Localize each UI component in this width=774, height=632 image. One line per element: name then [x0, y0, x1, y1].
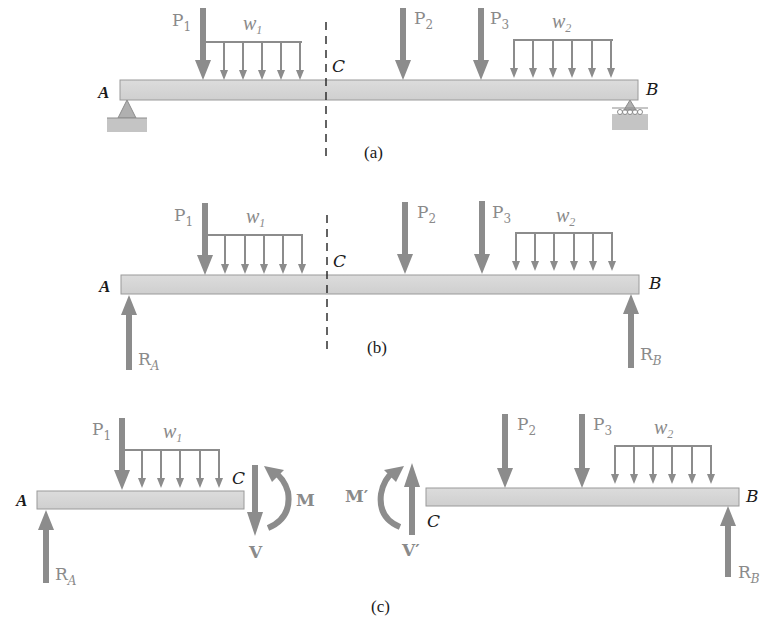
- caption-a: (a): [364, 143, 383, 162]
- reaction-ra-arrow: [121, 295, 137, 370]
- label-c-b: C: [333, 251, 346, 271]
- label-p1: P1: [172, 10, 191, 34]
- beam-b: [121, 275, 639, 294]
- label-p3-c: P3: [593, 414, 612, 438]
- panel-b: P1 w1 C P2 P3 w2 A B RA RB (b): [98, 201, 662, 373]
- distributed-load-w2-b: [512, 233, 616, 271]
- label-m-prime: M′: [345, 486, 369, 506]
- beam-segment-cb: [426, 488, 739, 506]
- shear-v-arrow: [247, 465, 263, 536]
- beam-diagram-figure: P1 w1 C P2 P3 w2 A B (a): [0, 0, 774, 632]
- label-v-prime: V′: [401, 540, 420, 560]
- label-w2-b: w2: [556, 204, 575, 229]
- load-p2-arrow-c: [497, 414, 513, 488]
- panel-c: P1 w1 C A RA V M: [15, 414, 760, 616]
- label-rb-b: RB: [640, 344, 662, 368]
- caption-b: (b): [367, 338, 387, 357]
- reaction-rb-arrow: [623, 294, 639, 368]
- distributed-load-w1: [206, 42, 304, 80]
- label-a-b: A: [98, 277, 110, 296]
- label-p2-c: P2: [517, 414, 536, 438]
- load-p1-arrow: [195, 8, 211, 80]
- label-w2-c: w2: [654, 416, 673, 441]
- label-b-b: B: [648, 273, 662, 293]
- distributed-load-w1-c: [124, 450, 223, 488]
- distributed-load-w2-c: [611, 446, 715, 484]
- load-p1-arrow-b: [197, 203, 213, 275]
- label-m: M: [296, 490, 315, 510]
- label-ra-b: RA: [138, 349, 160, 373]
- moment-m-prime-arrow: [381, 466, 404, 527]
- beam-segment-ac: [37, 491, 244, 509]
- label-a-c: A: [15, 491, 27, 510]
- distributed-load-w2: [510, 40, 615, 78]
- load-p2-arrow: [395, 8, 411, 80]
- label-b: B: [645, 79, 659, 99]
- label-p2: P2: [414, 8, 433, 32]
- load-p3-arrow-c: [574, 414, 590, 488]
- label-v: V: [248, 542, 263, 562]
- caption-c: (c): [371, 597, 390, 616]
- label-p3-b: P3: [492, 202, 511, 226]
- label-p2-b: P2: [417, 202, 436, 226]
- label-w2: w2: [552, 10, 571, 35]
- distributed-load-w1-b: [208, 235, 306, 274]
- beam-a: [120, 80, 638, 100]
- label-b-c: B: [745, 486, 759, 506]
- load-p2-arrow-b: [397, 202, 413, 274]
- shear-v-prime-arrow: [404, 463, 420, 535]
- pin-support-a: [107, 100, 147, 132]
- label-a: A: [97, 83, 109, 102]
- label-p1-b: P1: [174, 205, 193, 229]
- load-p1-arrow-c: [114, 418, 130, 490]
- label-p3: P3: [490, 8, 509, 32]
- load-p3-arrow-b: [474, 201, 490, 274]
- reaction-ra-arrow-c: [38, 510, 54, 583]
- label-c-right: C: [427, 511, 440, 531]
- label-p1-c: P1: [92, 419, 111, 443]
- label-ra-c: RA: [55, 564, 77, 588]
- label-w1-b: w1: [246, 205, 265, 230]
- label-rb-c: RB: [738, 562, 760, 586]
- panel-a: P1 w1 C P2 P3 w2 A B (a): [97, 8, 659, 162]
- label-c: C: [332, 56, 345, 76]
- load-p3-arrow: [473, 8, 489, 80]
- label-c-left: C: [232, 468, 245, 488]
- label-w1: w1: [243, 12, 262, 37]
- reaction-rb-arrow-c: [720, 506, 736, 577]
- roller-support-b: [612, 100, 648, 130]
- label-w1-c: w1: [163, 420, 182, 445]
- moment-m-arrow: [264, 466, 289, 528]
